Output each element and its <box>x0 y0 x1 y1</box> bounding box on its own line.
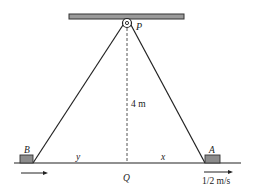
pulley-icon <box>123 19 132 28</box>
arrow-right-icon <box>204 170 233 174</box>
rope-left <box>33 25 123 163</box>
distance-y-label: y <box>75 152 81 162</box>
rope-right <box>131 25 205 163</box>
block-b-label: B <box>24 145 30 155</box>
height-label: 4 m <box>131 99 146 109</box>
foot-label: Q <box>123 173 130 183</box>
pulley-diagram: P 4 m B A y x Q 1/2 m/s <box>0 0 255 192</box>
block-a <box>205 155 220 163</box>
arrow-right-icon <box>21 171 48 175</box>
distance-x-label: x <box>160 152 166 162</box>
block-a-label: A <box>208 145 215 155</box>
speed-label: 1/2 m/s <box>202 176 231 186</box>
pulley-label: P <box>135 21 142 32</box>
block-b <box>20 155 33 163</box>
